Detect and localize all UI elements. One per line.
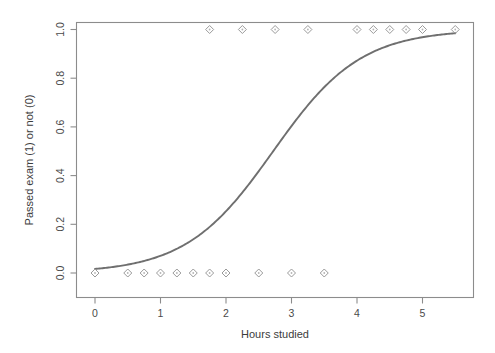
x-tick-label-3: 3 [289,307,295,319]
data-point-center [274,29,276,31]
data-point-center [192,272,194,274]
data-point-center [225,272,227,274]
y-axis-tick-labels: 0.0 0.2 0.4 0.6 0.8 1.0 [54,22,66,280]
data-point-center [241,29,243,31]
y-axis-ticks [71,30,77,274]
x-axis-ticks [95,298,423,304]
data-point-center [454,29,456,31]
y-tick-label-0-4: 0.4 [54,168,66,183]
data-point-center [422,29,424,31]
data-point-center [291,272,293,274]
data-point-center [356,29,358,31]
y-tick-label-0-8: 0.8 [54,71,66,86]
data-point-center [127,272,129,274]
y-tick-label-0-0: 0.0 [54,266,66,281]
data-point-center [143,272,145,274]
data-point-center [389,29,391,31]
x-tick-label-2: 2 [223,307,229,319]
x-axis-tick-labels: 0 1 2 3 4 5 [92,307,426,319]
data-point-center [160,272,162,274]
logistic-fit-curve [95,33,455,269]
x-tick-label-5: 5 [420,307,426,319]
data-point-center [209,29,211,31]
scatter-points [91,26,459,278]
y-tick-label-1-0: 1.0 [54,22,66,37]
x-axis-title: Hours studied [241,328,309,340]
logistic-regression-plot: 0 1 2 3 4 5 0.0 0.2 0.4 0.6 0.8 1.0 Hour… [0,0,495,353]
y-tick-label-0-6: 0.6 [54,119,66,134]
y-axis-title: Passed exam (1) or not (0) [23,95,35,226]
data-point-center [372,29,374,31]
x-tick-label-4: 4 [354,307,360,319]
data-point-center [258,272,260,274]
data-point-center [94,272,96,274]
data-point-center [405,29,407,31]
plot-frame [77,23,474,298]
x-tick-label-1: 1 [158,307,164,319]
figure-container: 0 1 2 3 4 5 0.0 0.2 0.4 0.6 0.8 1.0 Hour… [0,0,495,353]
y-tick-label-0-2: 0.2 [54,217,66,232]
x-tick-label-0: 0 [92,307,98,319]
data-point-center [307,29,309,31]
data-point-center [176,272,178,274]
data-point-center [209,272,211,274]
data-point-center [323,272,325,274]
